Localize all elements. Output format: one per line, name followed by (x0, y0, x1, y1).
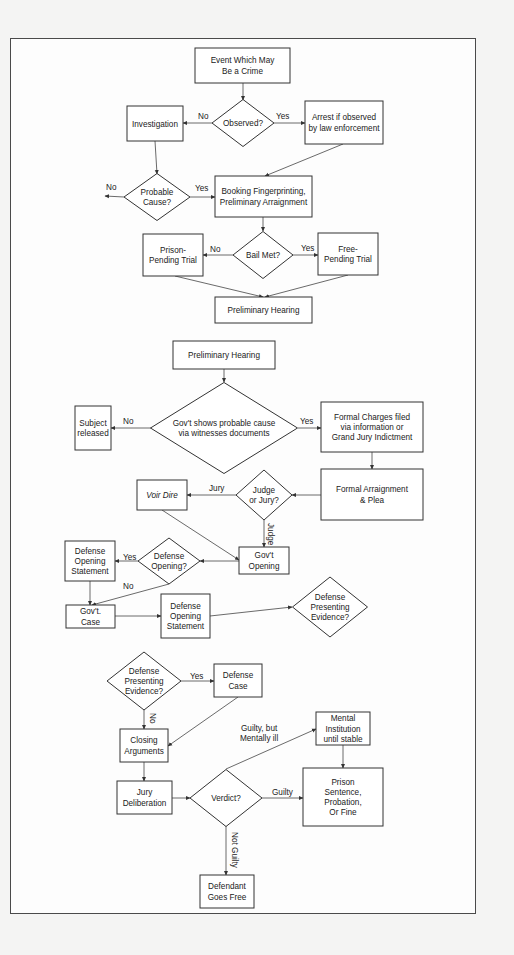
step-formal-charges: Formal Charges filedvia information orGr… (321, 402, 423, 452)
decision-defense-presenting-1: DefensePresentingEvidence? (293, 577, 368, 637)
connector-arrow (265, 275, 348, 297)
step-prelim2: Preliminary Hearing (173, 341, 275, 369)
edge-label: Yes (301, 244, 314, 253)
process-box (117, 781, 172, 814)
node-label: Presenting (124, 677, 164, 686)
process-box (215, 176, 312, 217)
edge-label: Guilty (272, 788, 294, 797)
node-label: Jury (137, 788, 153, 797)
step-jury-deliberation: JuryDeliberation (117, 781, 172, 814)
page: Event Which MayBe a CrimeObserved?Invest… (0, 0, 514, 955)
node-label: Or Fine (329, 808, 357, 817)
process-box (75, 406, 111, 450)
node-label: released (77, 429, 109, 438)
node-label: Defense (223, 671, 254, 680)
step-defense-case: DefenseCase (214, 664, 262, 697)
node-label: Defense (75, 547, 106, 556)
node-label: Be a Crime (222, 67, 263, 76)
node-label: Case (81, 618, 101, 627)
node-label: Opening (75, 557, 106, 566)
node-label: Prison (331, 778, 355, 787)
node-label: Investigation (132, 120, 178, 129)
node-label: Judge (253, 486, 276, 495)
process-box (195, 48, 290, 83)
edge-label: Judge (266, 523, 275, 546)
decision-govt-shows: Gov't shows probable causevia witnesses … (151, 383, 298, 474)
node-label: Preliminary Hearing (228, 306, 300, 315)
step-prison-sentence: PrisonSentence,Probation,Or Fine (303, 768, 383, 826)
step-arrest: Arrest if observedby law enforcement (305, 101, 383, 144)
node-label: Pending Trial (149, 256, 197, 265)
node-label: Statement (167, 622, 205, 631)
edge-label: No (198, 112, 209, 121)
node-label: Prison- (160, 246, 186, 255)
node-label: Pending Trial (324, 255, 372, 264)
node-label: Observed? (223, 119, 263, 128)
process-box (321, 469, 423, 520)
connector-arrow (265, 144, 343, 176)
node-label: Statement (71, 567, 109, 576)
node-label: Opening? (151, 562, 187, 571)
node-label: Gov't shows probable cause (173, 419, 276, 428)
node-label: Opening (170, 612, 201, 621)
connector-arrow (105, 196, 124, 197)
node-label: Opening (249, 562, 280, 571)
decision-diamond (236, 470, 292, 520)
edge-label: Mentally ill (240, 734, 278, 743)
connector-arrow (168, 697, 238, 746)
node-layer: Event Which MayBe a CrimeObserved?Invest… (65, 48, 423, 908)
node-label: via information or (341, 423, 404, 432)
node-label: Arguments (124, 747, 164, 756)
node-label: Deliberation (123, 799, 167, 808)
process-box (143, 234, 203, 276)
edge-label: Yes (195, 184, 208, 193)
edge-label: Not Guilty (230, 832, 239, 869)
node-label: Evidence? (125, 687, 164, 696)
decision-verdict: Verdict? (190, 770, 262, 827)
node-label: Mental (331, 714, 356, 723)
step-defense-opening-stmt-2: DefenseOpeningStatement (161, 594, 210, 638)
node-label: Gov't (255, 551, 275, 560)
node-label: Closing (130, 736, 158, 745)
step-formal-arraignment: Formal Arraignment& Plea (321, 469, 423, 520)
connector-arrow (210, 607, 292, 616)
decision-observed: Observed? (212, 100, 274, 147)
edge-label: No (123, 417, 134, 426)
decision-diamond (138, 538, 200, 584)
step-event: Event Which MayBe a Crime (195, 48, 290, 83)
edge-label: No (148, 713, 157, 724)
node-label: via witnesses documents (178, 429, 269, 438)
decision-diamond (124, 174, 190, 221)
node-label: Grand Jury Indictment (332, 433, 413, 442)
edge-label: Yes (123, 553, 136, 562)
step-investigation: Investigation (127, 106, 183, 141)
edge-label: No (106, 183, 117, 192)
node-label: Institution (325, 725, 360, 734)
node-label: Sentence, (325, 788, 362, 797)
decision-probable: ProbableCause? (124, 174, 190, 221)
node-label: Case (228, 682, 248, 691)
process-box (305, 101, 383, 144)
node-label: Goes Free (208, 893, 247, 902)
node-label: Formal Arraignment (336, 485, 409, 494)
node-label: Bail Met? (246, 251, 281, 260)
process-box (214, 664, 262, 697)
node-label: Gov't. (80, 607, 101, 616)
node-label: until stable (323, 735, 363, 744)
edge-label: Guilty, but (241, 724, 278, 733)
decision-defense-opening-q: DefenseOpening? (138, 538, 200, 584)
step-prelim1: Preliminary Hearing (215, 297, 312, 323)
step-defendant-free: DefendantGoes Free (200, 875, 254, 908)
step-govt-case: Gov't.Case (66, 605, 115, 628)
node-label: Voir Dire (146, 491, 178, 500)
connector-arrow (175, 276, 263, 297)
node-label: Arrest if observed (312, 113, 377, 122)
step-booking: Booking Fingerprinting,Preliminary Arrai… (215, 176, 312, 217)
step-closing: ClosingArguments (120, 729, 168, 762)
criminal-justice-flowchart: Event Which MayBe a CrimeObserved?Invest… (0, 0, 514, 955)
node-label: Free- (338, 245, 358, 254)
edge-label: No (210, 245, 221, 254)
node-label: or Jury? (249, 496, 279, 505)
node-label: Booking Fingerprinting, (221, 187, 305, 196)
decision-diamond (151, 383, 298, 474)
